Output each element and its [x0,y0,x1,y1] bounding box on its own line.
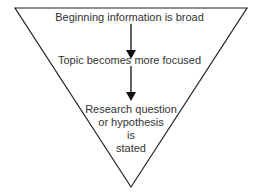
stage-question-label: Research question or hypothesis is state… [0,103,259,155]
stage-question-line-2: or hypothesis [0,116,259,129]
stage-focused-label: Topic becomes more focused [0,54,259,66]
funnel-diagram [0,0,259,193]
stage-question-line-4: stated [0,142,259,155]
stage-question-line-3: is [0,129,259,142]
stage-question-line-1: Research question [0,103,259,116]
stage-broad-label: Beginning information is broad [0,11,259,23]
arrow-focused-to-question [126,66,136,101]
